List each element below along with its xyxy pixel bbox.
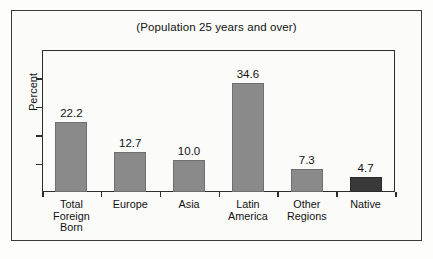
bar [55, 122, 87, 192]
bar-value-label: 4.7 [358, 162, 374, 174]
bar-group: 22.2 [42, 50, 101, 192]
bar-group: 7.3 [277, 50, 336, 192]
x-axis-label-line: Total [42, 199, 101, 211]
y-axis-label: Percent [27, 57, 39, 127]
x-axis-label-line: Asia [160, 199, 219, 211]
bar-group: 10.0 [160, 50, 219, 192]
x-axis-tick [336, 192, 338, 197]
bar [173, 160, 205, 192]
x-axis-tick [160, 192, 162, 197]
x-axis-tick [277, 192, 279, 197]
x-axis-label-line: Native [336, 199, 395, 211]
x-axis-label: Asia [160, 199, 219, 211]
x-axis-label-line: Europe [101, 199, 160, 211]
bar [291, 169, 323, 192]
x-axis-label-group: TotalForeignBornEuropeAsiaLatinAmericaOt… [42, 199, 395, 241]
chart-figure: (Population 25 years and over) Percent 2… [0, 0, 433, 259]
bar-value-label: 22.2 [60, 107, 82, 119]
bar-value-label: 34.6 [237, 68, 259, 80]
bar-value-label: 12.7 [119, 137, 141, 149]
bar [350, 177, 382, 192]
bar [232, 83, 264, 192]
x-axis-label-line: Regions [277, 211, 336, 223]
x-axis-label: OtherRegions [277, 199, 336, 222]
bar-series: 22.212.710.034.67.34.7 [42, 50, 395, 192]
x-axis-label: Native [336, 199, 395, 211]
bar [114, 152, 146, 192]
x-axis-label-line: Other [277, 199, 336, 211]
bar-group: 12.7 [101, 50, 160, 192]
x-axis-label-line: Latin [219, 199, 278, 211]
bar-group: 4.7 [336, 50, 395, 192]
x-axis-label: Europe [101, 199, 160, 211]
x-axis-tick [219, 192, 221, 197]
x-axis-tick [395, 192, 397, 197]
bar-group: 34.6 [219, 50, 278, 192]
bar-value-label: 10.0 [178, 145, 200, 157]
bar-value-label: 7.3 [299, 154, 315, 166]
x-axis-label: TotalForeignBorn [42, 199, 101, 234]
chart-title: (Population 25 years and over) [11, 21, 422, 33]
x-axis-tick [42, 192, 44, 197]
x-axis-label: LatinAmerica [219, 199, 278, 222]
x-axis-tick [101, 192, 103, 197]
x-axis-label-line: Born [42, 222, 101, 234]
x-axis-label-line: America [219, 211, 278, 223]
